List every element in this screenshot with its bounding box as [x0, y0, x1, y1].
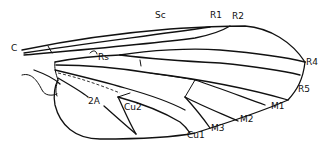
rs-crossvein — [140, 60, 141, 66]
m1-vein — [195, 80, 265, 105]
m3-vein — [185, 97, 210, 128]
m-crossvein — [185, 80, 195, 97]
r4-vein — [120, 49, 305, 62]
r1-vein — [24, 26, 230, 55]
r5-vein — [56, 65, 288, 100]
m2-vein — [185, 97, 238, 121]
cu-crossvein — [118, 93, 130, 97]
label-c: C — [11, 44, 17, 53]
m-stem — [55, 70, 185, 110]
a2-vein — [58, 78, 88, 97]
label-r1: R1 — [210, 11, 222, 20]
label-m1: M1 — [271, 102, 285, 111]
costal-margin — [22, 26, 305, 62]
label-2a: 2A — [88, 97, 100, 106]
label-cu2: Cu2 — [124, 103, 142, 112]
label-r2: R2 — [232, 12, 244, 21]
label-sc: Sc — [155, 11, 166, 20]
label-r4: R4 — [306, 58, 318, 67]
rs-stem — [55, 55, 120, 62]
wing-diagram — [0, 0, 333, 145]
rs-hook — [90, 51, 97, 54]
label-rs: Rs — [98, 53, 109, 62]
label-m3: M3 — [211, 124, 225, 133]
label-m2: M2 — [240, 115, 254, 124]
m-upper-link — [150, 73, 195, 80]
label-r5: R5 — [298, 85, 310, 94]
label-cu1: Cu1 — [187, 131, 205, 140]
